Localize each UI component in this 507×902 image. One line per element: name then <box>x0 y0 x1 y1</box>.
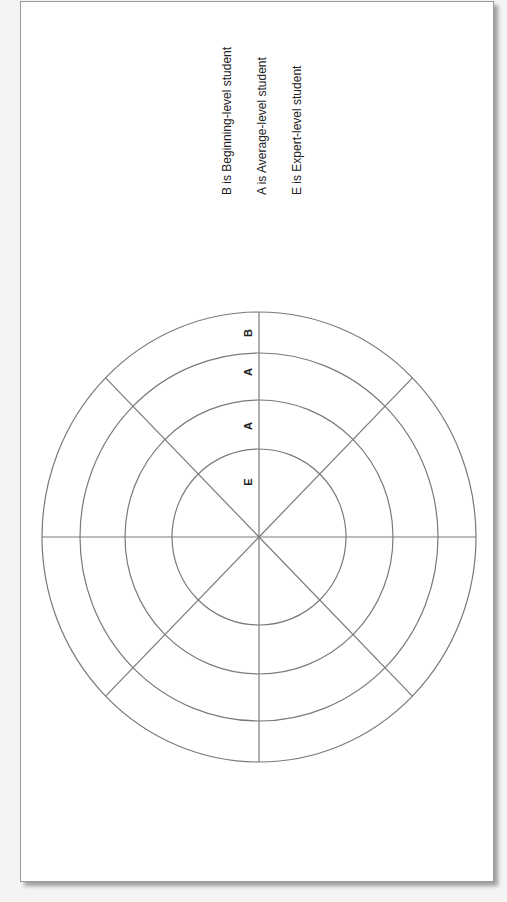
ring-label-beginning: B <box>243 329 254 337</box>
legend-expert: E is Expert-level student <box>290 66 304 195</box>
ring-label-average-inner: A <box>243 422 254 430</box>
ring-label-average-outer: A <box>243 368 254 376</box>
ring-label-expert: E <box>243 478 254 485</box>
legend-beginning: B is Beginning-level student <box>220 47 234 195</box>
target-wheel-diagram <box>0 0 507 902</box>
legend-average: A is Average-level student <box>255 57 269 195</box>
